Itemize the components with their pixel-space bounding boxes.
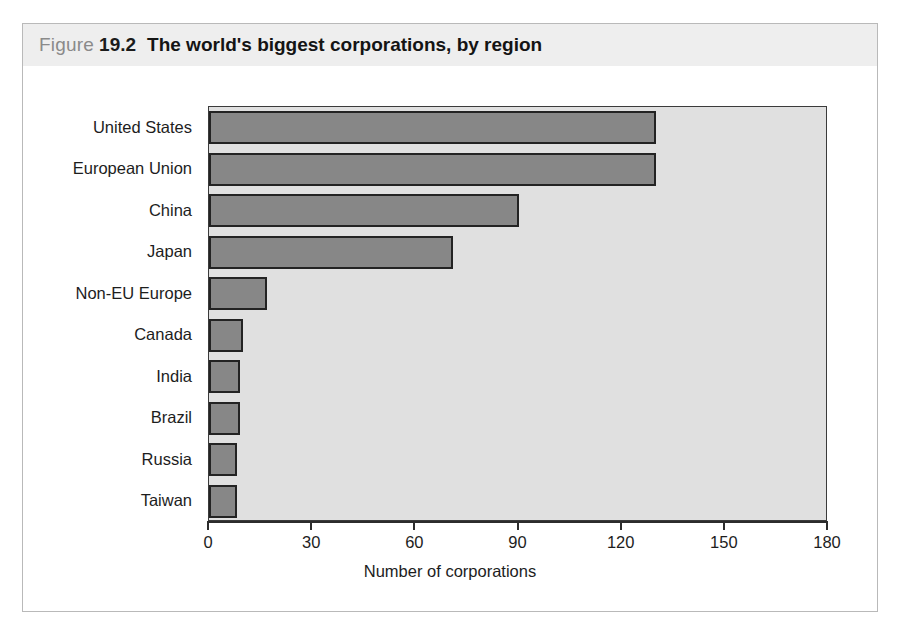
y-tick-label-russia: Russia (142, 449, 192, 468)
bar-non-eu-europe (209, 277, 826, 310)
figure-label-word: Figure (39, 34, 94, 55)
bar-rect (209, 485, 237, 518)
y-axis-labels: United StatesEuropean UnionChinaJapanNon… (23, 106, 202, 521)
y-tick-label-united-states: United States (93, 117, 192, 136)
x-tick-label-150: 150 (710, 533, 738, 552)
bar-european-union (209, 153, 826, 186)
figure-number: 19.2 (99, 34, 136, 55)
x-tick-0 (207, 521, 209, 530)
bar-united-states (209, 111, 826, 144)
y-tick-label-taiwan: Taiwan (141, 491, 192, 510)
y-tick-label-canada: Canada (134, 325, 192, 344)
y-tick-label-european-union: European Union (73, 159, 192, 178)
y-tick-label-non-eu-europe: Non-EU Europe (76, 283, 192, 302)
bars-layer (209, 107, 826, 520)
bar-taiwan (209, 485, 826, 518)
bar-china (209, 194, 826, 227)
bar-rect (209, 360, 240, 393)
x-axis-title: Number of corporations (23, 562, 877, 581)
bar-rect (209, 153, 656, 186)
x-tick-120 (620, 521, 622, 530)
bar-brazil (209, 402, 826, 435)
x-tick-30 (310, 521, 312, 530)
bar-canada (209, 319, 826, 352)
bar-rect (209, 319, 243, 352)
x-tick-label-120: 120 (607, 533, 635, 552)
y-tick-label-china: China (149, 200, 192, 219)
x-tick-60 (413, 521, 415, 530)
x-tick-label-0: 0 (203, 533, 212, 552)
x-tick-label-180: 180 (813, 533, 841, 552)
bar-rect (209, 236, 453, 269)
x-tick-180 (826, 521, 828, 530)
figure-container: Figure19.2The world's biggest corporatio… (22, 23, 878, 612)
bar-russia (209, 443, 826, 476)
bar-india (209, 360, 826, 393)
plot-area (208, 106, 827, 521)
y-tick-label-brazil: Brazil (151, 408, 192, 427)
figure-title-text: Figure19.2The world's biggest corporatio… (39, 34, 542, 56)
y-tick-label-japan: Japan (147, 242, 192, 261)
x-tick-label-90: 90 (508, 533, 526, 552)
figure-title: The world's biggest corporations, by reg… (147, 34, 542, 55)
x-tick-label-30: 30 (302, 533, 320, 552)
bar-japan (209, 236, 826, 269)
bar-rect (209, 111, 656, 144)
figure-title-band: Figure19.2The world's biggest corporatio… (23, 24, 877, 66)
x-tick-90 (517, 521, 519, 530)
x-tick-label-60: 60 (405, 533, 423, 552)
bar-rect (209, 443, 237, 476)
bar-rect (209, 277, 267, 310)
x-tick-150 (723, 521, 725, 530)
bar-rect (209, 402, 240, 435)
bar-rect (209, 194, 519, 227)
y-tick-label-india: India (156, 366, 192, 385)
